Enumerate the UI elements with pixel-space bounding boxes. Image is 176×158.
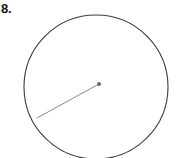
circle-diagram-svg <box>0 0 176 158</box>
center-point-dot <box>97 82 101 86</box>
circle-outline <box>24 15 168 158</box>
radius-line <box>37 84 99 118</box>
geometry-figure-canvas: 8. <box>0 0 176 158</box>
